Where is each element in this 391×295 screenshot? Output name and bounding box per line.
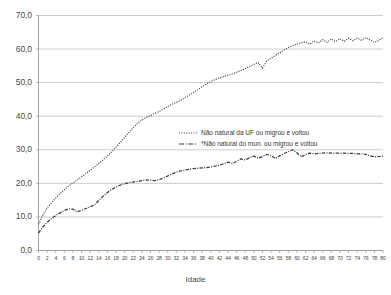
series-line-1	[39, 150, 384, 233]
legend-label-0: Não natural da UF ou migrou e voltou	[201, 129, 309, 136]
chart-container: 0,010,020,030,040,050,060,070,0 02468101…	[0, 0, 391, 295]
y-tick-label: 70,0	[2, 10, 32, 20]
legend-item-1[interactable]: *Não natural do mun. ou migrou e voltou	[178, 138, 317, 149]
chart-legend: Não natural da UF ou migrou e voltou *Nã…	[178, 127, 317, 149]
y-tick-label: 40,0	[2, 111, 32, 121]
y-tick-label: 60,0	[2, 44, 32, 54]
y-tick-label: 30,0	[2, 144, 32, 154]
legend-key-dashdot-icon	[178, 140, 198, 148]
y-tick-label: 10,0	[2, 211, 32, 221]
legend-item-0[interactable]: Não natural da UF ou migrou e voltou	[178, 127, 317, 138]
x-axis-title: Idade	[0, 275, 391, 284]
legend-label-1: *Não natural do mun. ou migrou e voltou	[201, 140, 317, 147]
x-tick-label: 80	[376, 255, 390, 261]
y-tick-label: 50,0	[2, 77, 32, 87]
legend-key-dotted-icon	[178, 129, 198, 137]
y-tick-label: 20,0	[2, 178, 32, 188]
y-tick-label: 0,0	[2, 245, 32, 255]
